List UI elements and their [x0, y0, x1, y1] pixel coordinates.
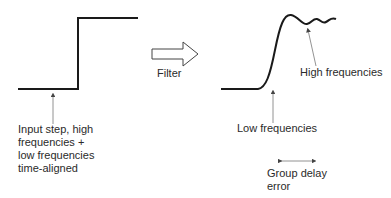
filter-label: Filter	[157, 67, 181, 80]
filter-arrow-icon	[152, 42, 198, 66]
input-label-line-4: time-aligned	[18, 162, 94, 175]
input-label-line-1: Input step, high	[18, 123, 94, 136]
input-step-label: Input step, high frequencies + low frequ…	[18, 123, 94, 175]
group-delay-line-2: error	[267, 180, 327, 193]
input-step-waveform	[18, 18, 138, 89]
low-frequencies-label: Low frequencies	[237, 122, 317, 135]
group-delay-line-1: Group delay	[267, 167, 327, 180]
high-freq-pointer-arrow	[308, 30, 316, 66]
input-label-line-3: low frequencies	[18, 149, 94, 162]
high-frequencies-label: High frequencies	[300, 66, 383, 79]
group-delay-label: Group delay error	[267, 167, 327, 193]
input-label-line-2: frequencies +	[18, 136, 94, 149]
